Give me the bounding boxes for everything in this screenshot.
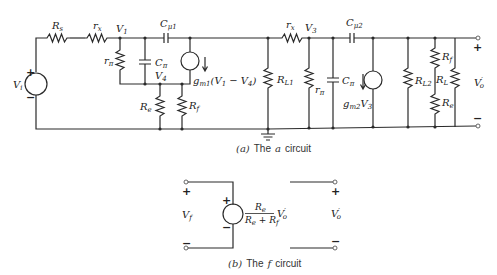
caption-f: (b)Thefcircuit: [228, 258, 301, 269]
label-vo: V′o: [474, 76, 484, 90]
ground-icon: [261, 129, 275, 140]
resistor-rf1: [178, 84, 186, 129]
vf-minus-sign: −: [182, 237, 191, 250]
wire: [182, 70, 190, 84]
label-v3: V3: [305, 22, 317, 35]
wire: [36, 38, 45, 72]
output-terminal-plus: [476, 36, 480, 40]
source-minus-sign: −: [222, 221, 231, 234]
vf-plus-sign: +: [182, 185, 191, 198]
circuit-f: + − Vf + − Re Re + Rf V′o + − V′o (b)The…: [182, 180, 341, 269]
resistor-rpi1: [116, 38, 182, 84]
capacitor-cpi1: [139, 38, 151, 84]
label-rpi2: rπ: [315, 84, 325, 97]
label-rx2: rx: [286, 19, 295, 32]
label-rf2: Rf: [441, 51, 454, 64]
label-cmu2: Cμ2: [346, 17, 363, 30]
feedback-amplifier-diagram: + − Vi Rs rx V1 rπ Cπ Cμ1 V4 gm1(V1 − V4…: [0, 0, 497, 275]
label-vo: V′o: [331, 207, 341, 221]
vo-minus-sign: −: [473, 112, 482, 125]
vo-plus-sign: +: [331, 185, 340, 198]
label-gm1: gm1(V1 − V4): [193, 75, 257, 88]
fraction-numerator: Re: [254, 202, 266, 214]
vi-minus-sign: −: [26, 91, 35, 104]
input-terminal-plus: [184, 180, 188, 184]
label-gm2: gm2V3: [343, 98, 373, 111]
label-vf: Vf: [182, 209, 193, 222]
source-plus-sign: +: [222, 194, 231, 207]
capacitor-cmu1: [164, 33, 168, 43]
current-source-gm2-icon: [364, 71, 382, 89]
resistor-rs: [45, 34, 70, 42]
label-v1: V1: [116, 23, 128, 36]
label-rs: Rs: [51, 20, 64, 33]
label-re1: Re: [139, 101, 152, 114]
caption-a: (a)Theacircuit: [236, 143, 311, 154]
fraction-denominator: Re + Rf: [244, 215, 280, 227]
label-rpi1: rπ: [104, 55, 114, 68]
resistor-rpi2: [305, 38, 313, 127]
vo-minus-sign: −: [331, 235, 340, 248]
current-arrow-icon: [203, 57, 208, 71]
label-v4: V4: [155, 70, 167, 83]
resistor-re1: [156, 84, 164, 129]
resistor-rl: [451, 38, 459, 127]
label-rf1: Rf: [188, 100, 201, 113]
label-rl: RL: [435, 74, 449, 87]
label-rl2: RL2: [414, 75, 432, 88]
output-terminal-plus: [333, 180, 337, 184]
label-rl1: RL1: [276, 74, 294, 87]
label-source-vo: V′o: [277, 207, 287, 221]
wire: [36, 95, 268, 129]
label-vi: Vi: [13, 79, 22, 92]
capacitor-cmu2: [350, 33, 354, 43]
resistor-rl1: [264, 38, 272, 129]
capacitor-cpi2: [327, 38, 339, 127]
label-rx1: rx: [93, 20, 102, 33]
label-cmu1: Cμ1: [160, 18, 177, 31]
vo-plus-sign: +: [473, 41, 482, 54]
label-cpi2: Cπ: [342, 75, 355, 88]
label-re2: Re: [441, 97, 454, 110]
resistor-rx1: [85, 34, 110, 42]
resistor-rl2: [404, 38, 412, 127]
vi-plus-sign: +: [26, 66, 35, 79]
current-source-gm1-icon: [181, 52, 199, 70]
circuit-a: + − Vi Rs rx V1 rπ Cπ Cμ1 V4 gm1(V1 − V4…: [13, 17, 484, 154]
label-cpi1: Cπ: [155, 57, 168, 70]
